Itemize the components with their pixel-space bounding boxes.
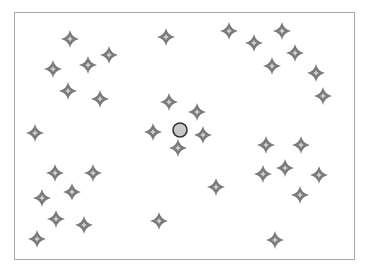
- star-icon: [47, 210, 65, 228]
- star-icon: [276, 159, 294, 177]
- star-icon: [63, 183, 81, 201]
- star-icon: [310, 166, 328, 184]
- star-icon: [292, 136, 310, 154]
- star-icon: [46, 164, 64, 182]
- star-icon: [44, 60, 62, 78]
- star-icon: [61, 30, 79, 48]
- star-icon: [245, 34, 263, 52]
- diagram-canvas: [0, 0, 370, 274]
- star-icon: [28, 230, 46, 248]
- star-icon: [100, 46, 118, 64]
- star-icon: [144, 123, 162, 141]
- star-icon: [59, 82, 77, 100]
- star-icon: [160, 93, 178, 111]
- star-icon: [157, 28, 175, 46]
- star-icon: [79, 56, 97, 74]
- star-icon: [314, 87, 332, 105]
- star-icon: [26, 124, 44, 142]
- star-icon: [188, 103, 206, 121]
- star-icon: [263, 57, 281, 75]
- star-icon: [291, 186, 309, 204]
- star-icon: [194, 126, 212, 144]
- star-icon: [169, 139, 187, 157]
- star-icon: [257, 136, 275, 154]
- star-icon: [75, 216, 93, 234]
- star-icon: [33, 189, 51, 207]
- star-icon: [266, 231, 284, 249]
- star-icon: [273, 22, 291, 40]
- star-icon: [207, 178, 225, 196]
- star-icon: [254, 165, 272, 183]
- star-icon: [84, 164, 102, 182]
- star-icon: [91, 90, 109, 108]
- circle-marker-icon: [173, 123, 187, 137]
- star-icon: [150, 212, 168, 230]
- star-icon: [307, 64, 325, 82]
- star-icon: [286, 44, 304, 62]
- star-icon: [220, 22, 238, 40]
